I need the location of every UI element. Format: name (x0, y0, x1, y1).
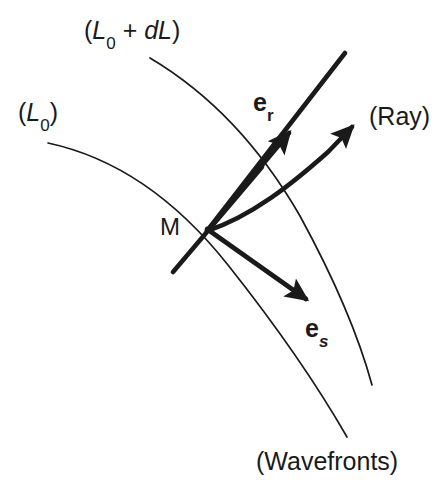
vector-symbol-e: e (305, 314, 319, 342)
symbol-dL: dL (144, 16, 172, 44)
symbol-L: L (92, 16, 106, 44)
paren-close: ) (50, 98, 58, 126)
vector-es-label: es (305, 316, 328, 346)
vector-er-arrow (207, 133, 289, 231)
wavefront-inner-label: (L0) (18, 100, 58, 130)
plus-sign: + (116, 16, 145, 44)
paren-close: ) (172, 16, 180, 44)
wavefronts-label: (Wavefronts) (256, 449, 398, 474)
wavefront-outer-label: (L0 + dL) (84, 18, 180, 48)
wavefront-inner-curve (48, 143, 347, 437)
ray-label: (Ray) (369, 104, 430, 129)
point-m-label: M (160, 215, 180, 239)
symbol-L: L (26, 98, 40, 126)
subscript-zero: 0 (40, 116, 49, 135)
vector-symbol-e: e (253, 88, 267, 116)
wavefront-ray-diagram: (L0 + dL) (L0) er (Ray) M es (Wavefronts… (0, 0, 446, 496)
vector-er-label: er (253, 90, 274, 120)
vector-subscript-r: r (267, 106, 274, 125)
vector-subscript-s: s (319, 332, 328, 351)
vector-es-arrow (207, 229, 306, 299)
subscript-zero: 0 (106, 34, 115, 53)
diagram-canvas (0, 0, 446, 496)
